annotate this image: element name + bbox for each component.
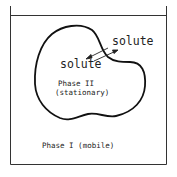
solute-label-stationary: solute [60,57,102,71]
partition-diagram: solute solute Phase II (stationary) Phas… [0,0,177,177]
arrowhead-right-icon [113,50,119,54]
phase-i-label: Phase I (mobile) [42,141,114,150]
solute-label-mobile: solute [112,34,154,48]
phase-ii-sublabel: (stationary) [55,88,109,97]
phase-ii-label: Phase II [58,79,94,88]
